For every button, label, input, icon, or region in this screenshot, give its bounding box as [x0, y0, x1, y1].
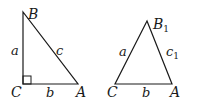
triangle-outline	[23, 12, 78, 84]
side-label-c1: c1	[166, 44, 179, 61]
vertex-label-a: A	[168, 84, 180, 100]
right-triangle-abc: B C A a b c	[11, 6, 86, 100]
side-label-b: b	[46, 85, 54, 100]
side-label-b: b	[142, 85, 150, 100]
triangle-ab1c: B1 C A a b c1	[107, 16, 180, 100]
right-angle-mark	[23, 76, 31, 84]
side-label-a: a	[11, 43, 19, 58]
vertex-label-c: C	[11, 84, 22, 100]
vertex-label-b1: B1	[152, 16, 169, 34]
side-label-a: a	[119, 44, 127, 59]
triangles-diagram: B C A a b c B1 C A a b c1	[0, 0, 206, 112]
vertex-label-a: A	[74, 84, 86, 100]
vertex-label-b: B	[27, 6, 38, 22]
side-label-c: c	[56, 43, 64, 58]
vertex-label-c: C	[107, 84, 118, 100]
